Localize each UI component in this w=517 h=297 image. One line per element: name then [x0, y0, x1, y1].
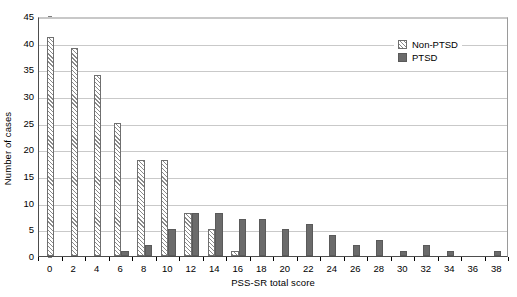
bar-non-ptsd: [71, 48, 78, 256]
y-axis-tick-label: 25: [14, 119, 34, 129]
x-axis-tick-mark: [85, 257, 86, 261]
bar-group: [251, 18, 275, 256]
x-axis-tick-mark: [344, 257, 345, 261]
bar-non-ptsd: [137, 160, 144, 256]
x-axis-tick-mark: [62, 257, 63, 261]
x-axis-tick-mark: [38, 257, 39, 261]
x-axis-tick-labels: 02468101214161820222426283032343638: [38, 262, 508, 276]
bar-non-ptsd: [94, 75, 101, 256]
x-axis-tick-label: 12: [185, 262, 196, 275]
x-axis-tick-label: 22: [303, 262, 314, 275]
x-axis-tick-mark: [273, 257, 274, 261]
x-axis-tick-mark: [132, 257, 133, 261]
y-axis-tick-label: 15: [14, 172, 34, 182]
legend-entry[interactable]: PTSD: [398, 52, 458, 63]
x-axis-tick-label: 36: [467, 262, 478, 275]
x-axis-tick-mark: [203, 257, 204, 261]
y-axis-tick-label: 5: [14, 226, 34, 236]
y-axis-tick-label: 30: [14, 92, 34, 102]
bar-group: [462, 18, 486, 256]
bar-ptsd: [259, 219, 266, 256]
bar-non-ptsd: [47, 37, 54, 256]
bar-ptsd: [215, 213, 222, 256]
x-axis-tick-mark: [109, 257, 110, 261]
x-axis-tick-mark: [320, 257, 321, 261]
chart-legend: Non-PTSDPTSD: [394, 37, 462, 66]
bar-ptsd: [121, 251, 128, 256]
x-axis-tick-label: 28: [373, 262, 384, 275]
legend-label: Non-PTSD: [412, 39, 458, 50]
x-axis-tick-label: 38: [491, 262, 502, 275]
x-axis-tick-mark: [297, 257, 298, 261]
bar-ptsd: [239, 219, 246, 256]
x-axis-tick-label: 0: [47, 262, 52, 275]
bar-group: [110, 18, 134, 256]
x-axis-tick-mark: [179, 257, 180, 261]
hatched-diagonal-swatch: [398, 40, 407, 49]
y-axis-tick-label: 45: [14, 12, 34, 22]
x-axis-tick-label: 26: [350, 262, 361, 275]
bar-non-ptsd: [161, 160, 168, 256]
bar-group: [274, 18, 298, 256]
x-axis-tick-label: 6: [118, 262, 123, 275]
x-axis-tick-label: 34: [444, 262, 455, 275]
bar-group: [180, 18, 204, 256]
x-axis-tick-label: 10: [162, 262, 173, 275]
bar-ptsd: [282, 229, 289, 256]
x-axis-tick-label: 8: [141, 262, 146, 275]
bar-ptsd: [145, 245, 152, 256]
x-axis-tick-mark: [156, 257, 157, 261]
y-axis-tick-labels: 051015202530354045: [14, 17, 34, 257]
bar-ptsd: [400, 251, 407, 256]
legend-label: PTSD: [412, 52, 437, 63]
bar-ptsd: [168, 229, 175, 256]
bar-ptsd: [192, 213, 199, 256]
x-axis-tick-mark: [226, 257, 227, 261]
bar-group: [486, 18, 510, 256]
x-axis-tick-label: 32: [420, 262, 431, 275]
x-axis-tick-mark: [485, 257, 486, 261]
bar-group: [345, 18, 369, 256]
x-axis-tick-mark: [461, 257, 462, 261]
bar-ptsd: [353, 245, 360, 256]
y-axis-tick-label: 40: [14, 39, 34, 49]
bar-non-ptsd: [208, 229, 215, 256]
bar-non-ptsd: [184, 213, 191, 256]
x-axis-tick-mark: [250, 257, 251, 261]
bar-ptsd: [376, 240, 383, 256]
x-axis-tick-label: 16: [232, 262, 243, 275]
bar-non-ptsd: [114, 123, 121, 256]
bar-group: [86, 18, 110, 256]
y-axis-tick-label: 10: [14, 199, 34, 209]
x-axis-tick-mark: [508, 257, 509, 261]
x-axis-tick-label: 14: [209, 262, 220, 275]
y-axis-tick-label: 20: [14, 146, 34, 156]
x-axis-tick-label: 2: [71, 262, 76, 275]
bar-group: [204, 18, 228, 256]
bar-ptsd: [494, 251, 501, 256]
x-axis-tick-mark: [367, 257, 368, 261]
x-axis-title: PSS-SR total score: [38, 277, 508, 288]
bar-group: [227, 18, 251, 256]
bar-group: [133, 18, 157, 256]
x-axis-tick-label: 30: [397, 262, 408, 275]
x-axis-tick-mark: [438, 257, 439, 261]
y-axis-tick-label: 35: [14, 66, 34, 76]
x-axis-tick-mark: [414, 257, 415, 261]
bar-ptsd: [447, 251, 454, 256]
x-axis-tick-label: 4: [94, 262, 99, 275]
solid-gray-swatch: [398, 53, 407, 62]
y-axis-tick-label: 0: [14, 252, 34, 262]
x-axis-tick-label: 24: [326, 262, 337, 275]
bar-ptsd: [423, 245, 430, 256]
bar-group: [63, 18, 87, 256]
x-axis-tick-mark: [391, 257, 392, 261]
bar-ptsd: [329, 235, 336, 256]
bar-group: [39, 18, 63, 256]
bar-non-ptsd: [231, 251, 238, 256]
bar-group: [157, 18, 181, 256]
bar-group: [321, 18, 345, 256]
legend-entry[interactable]: Non-PTSD: [398, 39, 458, 50]
x-axis-tick-label: 20: [279, 262, 290, 275]
bar-group: [298, 18, 322, 256]
